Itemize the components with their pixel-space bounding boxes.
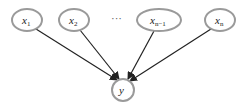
edge-xn-y	[130, 29, 211, 81]
edge-x2-y	[80, 30, 119, 79]
node-y: y	[112, 79, 134, 101]
node-x1: x1	[12, 9, 42, 31]
ellipsis: ···	[111, 12, 122, 24]
edge-xn-1-y	[128, 31, 154, 79]
node-xn-minus-1: xn−1	[137, 9, 181, 31]
diagram-canvas: x1 x2 ··· xn−1 xn y	[0, 0, 248, 106]
node-xn: xn	[205, 9, 235, 31]
edge-x1-y	[36, 29, 117, 80]
node-x2: x2	[59, 9, 89, 31]
svg-text:y: y	[118, 84, 124, 96]
